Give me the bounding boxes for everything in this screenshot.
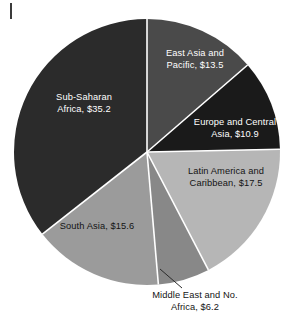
pie-chart-canvas: [0, 0, 291, 329]
pie-chart: East Asia and Pacific, $13.5 Europe and …: [0, 0, 291, 329]
